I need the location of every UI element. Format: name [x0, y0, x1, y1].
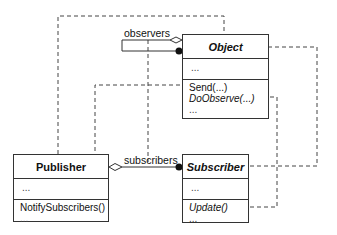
class-publisher[interactable]: Publisher ... NotifySubscribers() ... — [13, 154, 109, 222]
class-attributes: ... — [183, 59, 268, 80]
aggregation-diamond-icon — [109, 164, 122, 171]
association-label-subscribers: subscribers — [124, 154, 178, 166]
class-operations: Send(...) DoObserve(...) ... — [183, 80, 268, 115]
class-operations: Update() ... — [183, 200, 248, 224]
class-attributes: ... — [14, 179, 108, 200]
operation: NotifySubscribers() — [20, 202, 108, 213]
association-label-observers: observers — [124, 27, 170, 39]
operation: Update() — [189, 202, 248, 213]
class-operations: NotifySubscribers() ... — [14, 200, 108, 224]
class-name: Object — [183, 35, 268, 59]
operation: ... — [189, 213, 248, 224]
class-name: Publisher — [14, 155, 108, 179]
operation: ... — [189, 104, 268, 115]
class-attributes: ... — [183, 179, 248, 200]
operation: ... — [20, 213, 108, 224]
operation: DoObserve(...) — [189, 93, 268, 104]
class-object[interactable]: Object ... Send(...) DoObserve(...) ... — [182, 34, 269, 119]
aggregation-diamond-icon — [170, 37, 182, 43]
class-subscriber[interactable]: Subscriber ... Update() ... — [182, 154, 249, 223]
class-name: Subscriber — [183, 155, 248, 179]
operation: Send(...) — [189, 82, 268, 93]
